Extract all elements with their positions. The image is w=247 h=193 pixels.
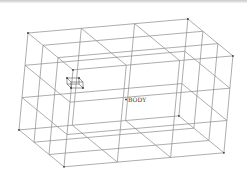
body-label-text: BODY [128,96,147,103]
cad-viewport[interactable]: BODY [0,0,247,193]
body-origin-point [125,99,127,101]
annotation-layer: BODY [0,0,247,193]
body-label[interactable]: BODY [125,96,147,103]
coordinate-system-marker[interactable] [66,77,84,89]
